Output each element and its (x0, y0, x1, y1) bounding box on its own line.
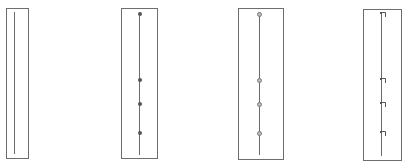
flag-marker-icon (380, 78, 386, 83)
vertical-line (14, 12, 15, 154)
diagram-panel-3 (238, 8, 284, 160)
diagram-panel-1 (6, 8, 29, 159)
diagram-panel-4 (363, 9, 402, 161)
flag-marker-icon (380, 131, 386, 136)
ring-marker-icon (257, 78, 262, 83)
dot-marker-icon (138, 131, 142, 135)
ring-marker-icon (257, 102, 262, 107)
dot-marker-icon (138, 102, 142, 106)
dot-marker-icon (138, 12, 142, 16)
ring-marker-icon (257, 131, 262, 136)
dot-marker-icon (138, 78, 142, 82)
flag-marker-icon (380, 102, 386, 107)
flag-marker-icon (380, 12, 386, 17)
ring-marker-icon (257, 12, 262, 17)
figure-canvas (0, 0, 419, 167)
